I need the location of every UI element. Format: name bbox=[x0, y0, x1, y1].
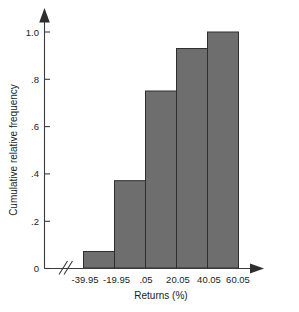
y-tick-label-0: 0 bbox=[34, 263, 39, 274]
x-tick-label-3: 20.05 bbox=[166, 274, 190, 285]
x-tick-label-2: .05 bbox=[139, 274, 152, 285]
x-axis-title: Returns (%) bbox=[134, 290, 187, 301]
y-tick-label-2: .4 bbox=[31, 168, 39, 179]
x-axis-break-icon bbox=[59, 261, 73, 275]
chart-container: 0 .2 .4 .6 .8 1.0 Cumulative relative fr… bbox=[0, 0, 299, 312]
cumulative-relative-frequency-histogram: 0 .2 .4 .6 .8 1.0 Cumulative relative fr… bbox=[0, 0, 299, 312]
x-axis-arrowhead-icon bbox=[250, 263, 264, 273]
y-tick-label-4: .8 bbox=[31, 74, 39, 85]
bars-group bbox=[84, 32, 239, 268]
bar-2[interactable] bbox=[115, 181, 146, 268]
y-tick-label-1: .2 bbox=[31, 216, 39, 227]
bar-3[interactable] bbox=[146, 91, 177, 268]
y-tick-labels: 0 .2 .4 .6 .8 1.0 bbox=[26, 27, 39, 275]
y-tick-label-3: .6 bbox=[31, 121, 39, 132]
x-tick-labels: -39.95 -19.95 .05 20.05 40.05 60.05 bbox=[72, 274, 250, 285]
y-axis bbox=[39, 8, 50, 269]
bar-1[interactable] bbox=[84, 251, 115, 268]
y-axis-title: Cumulative relative frequency bbox=[8, 84, 19, 216]
x-tick-label-0: -39.95 bbox=[72, 274, 99, 285]
x-tick-label-5: 60.05 bbox=[226, 274, 250, 285]
bar-4[interactable] bbox=[177, 49, 208, 268]
y-tick-marks bbox=[45, 32, 51, 269]
y-tick-label-5: 1.0 bbox=[26, 27, 39, 38]
bar-5[interactable] bbox=[208, 32, 239, 268]
x-tick-label-1: -19.95 bbox=[103, 274, 130, 285]
x-tick-label-4: 40.05 bbox=[197, 274, 221, 285]
y-axis-arrowhead-icon bbox=[39, 8, 50, 23]
